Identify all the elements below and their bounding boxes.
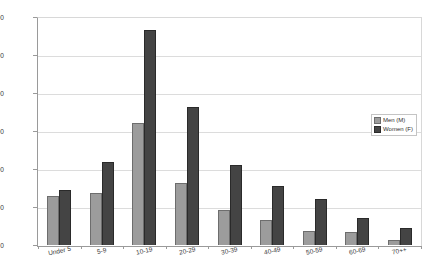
- legend-swatch-women: [374, 126, 381, 133]
- x-axis-tick-label: 60-69: [348, 245, 366, 256]
- bar-men: [132, 123, 144, 245]
- x-axis-tick-label: Under 5: [47, 245, 71, 258]
- bar-men: [303, 231, 315, 245]
- bar-group: [208, 17, 251, 245]
- bar-women: [144, 30, 156, 245]
- bar-women: [230, 165, 242, 245]
- x-axis-tick-label: 50-59: [306, 245, 324, 256]
- bar-group: [293, 17, 336, 245]
- y-axis-tick-mark: [33, 55, 37, 56]
- bar-men: [47, 196, 59, 245]
- y-axis-tick-label: 0: [0, 242, 4, 249]
- x-axis-tick-label: 10-19: [135, 245, 153, 256]
- bar-men: [260, 220, 272, 245]
- y-axis-tick-mark: [33, 17, 37, 18]
- x-axis-tick: 30-39: [208, 247, 251, 255]
- bar-men: [90, 193, 102, 245]
- x-axis-tick: 5-9: [81, 247, 124, 255]
- bar-women: [272, 186, 284, 245]
- x-axis-tick: 10-19: [123, 247, 166, 255]
- legend-item: Men (M): [374, 117, 413, 124]
- bar-women: [315, 199, 327, 245]
- y-axis-tick-label: 100: [0, 204, 4, 211]
- x-axis-tick: 20-29: [166, 247, 209, 255]
- y-axis-tick-mark: [33, 207, 37, 208]
- y-axis-tick-label: 500: [0, 52, 4, 59]
- y-axis-tick-label: 200: [0, 166, 4, 173]
- bar-men: [345, 232, 357, 245]
- chart-legend: Men (M)Women (F): [371, 114, 417, 136]
- bar-men: [175, 183, 187, 245]
- bar-women: [59, 190, 71, 245]
- x-axis-tick: 40-49: [251, 247, 294, 255]
- bar-group: [123, 17, 166, 245]
- y-axis-tick-label: 600: [0, 14, 4, 21]
- x-axis-labels: Under 55-910-1920-2930-3940-4950-5960-69…: [38, 247, 421, 255]
- bar-group: [38, 17, 81, 245]
- legend-label: Women (F): [383, 126, 413, 133]
- x-axis-tick-mark: [421, 246, 422, 249]
- y-axis-tick-mark: [33, 93, 37, 94]
- bar-men: [218, 210, 230, 245]
- y-axis-tick-label: 300: [0, 128, 4, 135]
- x-axis-tick-label: 70++: [392, 246, 408, 257]
- bar-women: [357, 218, 369, 245]
- legend-item: Women (F): [374, 126, 413, 133]
- x-axis-tick: Under 5: [38, 247, 81, 255]
- bar-group: [166, 17, 209, 245]
- x-axis-tick-label: 5-9: [96, 246, 107, 256]
- y-axis-tick-mark: [33, 245, 37, 246]
- y-axis-tick-mark: [33, 169, 37, 170]
- x-axis-tick-label: 20-29: [178, 245, 196, 256]
- y-axis-tick-mark: [33, 131, 37, 132]
- x-axis-tick-label: 30-39: [221, 245, 239, 256]
- y-axis-tick-label: 400: [0, 90, 4, 97]
- x-axis-tick: 60-69: [336, 247, 379, 255]
- legend-label: Men (M): [383, 117, 405, 124]
- x-axis-tick: 70++: [379, 247, 422, 255]
- bar-group: [251, 17, 294, 245]
- x-axis-tick-label: 40-49: [263, 245, 281, 256]
- bar-women: [102, 162, 114, 245]
- bar-group: [81, 17, 124, 245]
- bar-chart: 6005004003002001000 Under 55-910-1920-29…: [0, 0, 428, 267]
- bar-men: [388, 240, 400, 245]
- x-axis-tick: 50-59: [293, 247, 336, 255]
- legend-swatch-men: [374, 117, 381, 124]
- bar-women: [400, 228, 412, 245]
- bar-women: [187, 107, 199, 245]
- bars-area: [38, 17, 421, 245]
